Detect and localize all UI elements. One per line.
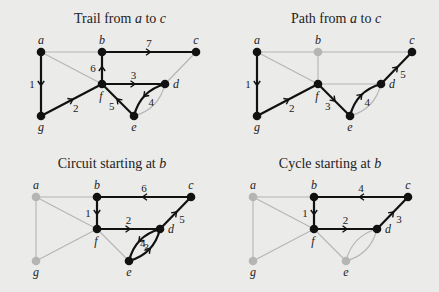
vertex-label-b: b	[99, 33, 105, 47]
step-label: 3	[325, 100, 331, 112]
edge-d-c	[377, 197, 408, 229]
step-label: 5	[400, 68, 406, 80]
step-label: 1	[29, 78, 35, 90]
step-label: 3	[396, 213, 402, 225]
step-label: 5	[179, 213, 185, 225]
panel-title: Cycle starting at b	[279, 156, 381, 171]
step-label: 2	[343, 214, 349, 226]
edges-layer: 12354	[245, 52, 412, 116]
step-label: 3	[131, 69, 137, 81]
vertex-f	[98, 80, 107, 89]
vertex-label-e: e	[126, 265, 132, 279]
vertex-f	[310, 225, 319, 234]
step-label: 2	[289, 102, 295, 114]
vertex-label-e: e	[347, 120, 353, 134]
step-label: 1	[245, 78, 251, 90]
step-label: 4	[358, 182, 364, 194]
step-label: 1	[85, 207, 91, 219]
vertex-e	[125, 257, 134, 266]
vertex-label-g: g	[33, 265, 39, 279]
vertex-label-g: g	[250, 265, 256, 279]
edge-d-c	[160, 197, 191, 229]
edge-g-f	[253, 229, 314, 261]
edge-f-e	[102, 84, 134, 116]
vertex-a	[249, 193, 258, 202]
vertex-b	[98, 48, 107, 57]
edges-layer: 7162354	[29, 37, 196, 116]
vertex-label-f: f	[94, 234, 99, 248]
edge-g-f	[36, 229, 97, 261]
vertex-c	[192, 48, 201, 57]
vertex-c	[187, 193, 196, 202]
step-label: 4	[149, 96, 155, 108]
vertex-label-f: f	[311, 234, 316, 248]
panel-title: Circuit starting at b	[58, 156, 166, 171]
vertex-d	[156, 225, 165, 234]
vertex-label-e: e	[131, 120, 137, 134]
edge-f-e	[318, 84, 350, 116]
vertex-label-d: d	[389, 77, 396, 91]
step-label: 6	[141, 182, 147, 194]
vertex-label-d: d	[385, 222, 392, 236]
step-label: 2	[73, 102, 79, 114]
vertex-f	[93, 225, 102, 234]
vertex-a	[37, 48, 46, 57]
vertex-c	[404, 193, 413, 202]
vertex-label-f: f	[315, 89, 320, 103]
step-label: 6	[90, 62, 96, 74]
vertex-label-d: d	[173, 77, 180, 91]
vertex-label-f: f	[99, 89, 104, 103]
vertex-label-g: g	[38, 120, 44, 134]
vertex-label-b: b	[315, 33, 321, 47]
panel-path-a-to-c: Path from a to c 12354 abcdefg	[245, 11, 416, 134]
vertex-d	[373, 225, 382, 234]
step-label: 4	[365, 96, 371, 108]
graph-walks-figure: Trail from a to c 7162354 abcdefg Path f…	[0, 0, 439, 292]
vertex-e	[346, 112, 355, 121]
vertex-label-b: b	[94, 178, 100, 192]
step-label: 5	[109, 100, 115, 112]
edge-f-e	[314, 229, 346, 261]
vertex-b	[314, 48, 323, 57]
step-label: 1	[302, 207, 308, 219]
edge-a-f	[257, 52, 318, 84]
vertex-g	[32, 257, 41, 266]
edge-d-c	[165, 52, 196, 84]
panel-title: Path from a to c	[291, 11, 382, 26]
vertex-e	[342, 257, 351, 266]
step-label: 7	[146, 37, 152, 49]
step-label: 2	[126, 214, 132, 226]
vertex-label-g: g	[254, 120, 260, 134]
vertex-label-c: c	[193, 33, 199, 47]
edge-g-f	[41, 84, 102, 116]
vertex-label-e: e	[343, 265, 349, 279]
edge-d-c	[381, 52, 412, 84]
panel-title: Trail from a to c	[74, 11, 167, 26]
vertex-d	[377, 80, 386, 89]
panel-cycle-starting-at-b: Cycle starting at b 4123 abcdefg	[249, 156, 413, 279]
vertex-label-c: c	[409, 33, 415, 47]
panel-trail-a-to-c: Trail from a to c 7162354 abcdefg	[29, 11, 200, 134]
step-label: 3	[144, 241, 150, 253]
vertex-label-a: a	[33, 178, 39, 192]
vertex-g	[37, 112, 46, 121]
vertex-f	[314, 80, 323, 89]
edge-d-e-upper	[346, 229, 377, 261]
vertex-label-c: c	[188, 178, 194, 192]
vertex-a	[253, 48, 262, 57]
vertex-label-b: b	[311, 178, 317, 192]
edge-f-e	[97, 229, 129, 261]
vertex-b	[310, 193, 319, 202]
edge-d-e-lower	[346, 229, 377, 261]
vertex-g	[253, 112, 262, 121]
vertex-label-c: c	[405, 178, 411, 192]
edge-g-f	[257, 84, 318, 116]
vertex-g	[249, 257, 258, 266]
vertex-label-d: d	[168, 222, 175, 236]
vertex-label-a: a	[250, 178, 256, 192]
vertex-b	[93, 193, 102, 202]
panel-circuit-starting-at-b: Circuit starting at b 612543 abcdefg	[32, 156, 196, 279]
vertex-c	[408, 48, 417, 57]
vertex-label-a: a	[254, 33, 260, 47]
vertex-label-a: a	[38, 33, 44, 47]
